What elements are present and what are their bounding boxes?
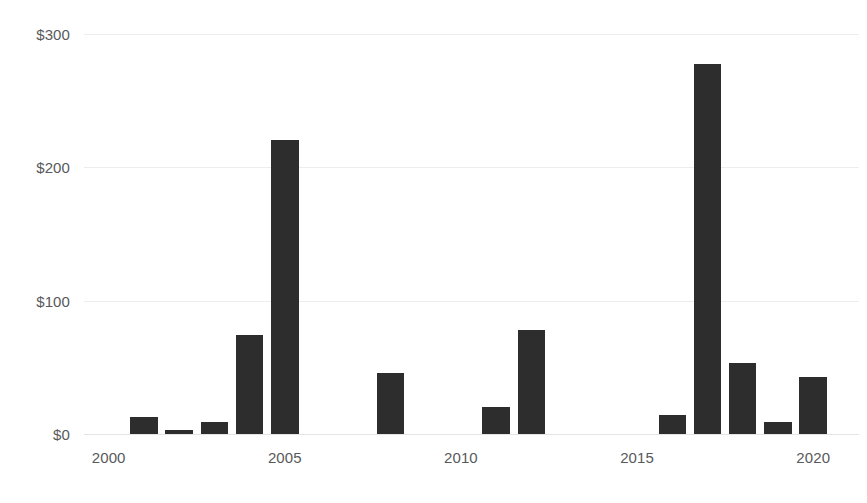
x-axis-tick-label: 2015 xyxy=(620,449,654,466)
x-axis-tick-label: 2020 xyxy=(796,449,830,466)
bar xyxy=(377,373,404,434)
y-axis-tick-label: $300 xyxy=(36,25,70,42)
bar-chart: $0$100$200$300 20002005201020152020 xyxy=(0,0,867,503)
bar xyxy=(271,140,298,434)
gridline xyxy=(84,301,859,302)
bar xyxy=(694,64,721,434)
x-axis-tick-label: 2010 xyxy=(444,449,478,466)
bar xyxy=(729,363,756,434)
bar xyxy=(236,335,263,434)
y-axis-tick-label: $0 xyxy=(53,426,70,443)
bar xyxy=(130,417,157,434)
gridline xyxy=(84,167,859,168)
bar xyxy=(482,407,509,434)
bar xyxy=(659,415,686,434)
y-axis-tick-label: $200 xyxy=(36,159,70,176)
y-axis-tick-labels: $0$100$200$300 xyxy=(0,34,70,435)
gridline xyxy=(84,34,859,35)
x-axis-tick-label: 2005 xyxy=(268,449,302,466)
bar xyxy=(764,422,791,434)
bar xyxy=(518,330,545,434)
bar xyxy=(201,422,228,434)
x-axis-tick-labels: 20002005201020152020 xyxy=(0,449,867,473)
bar xyxy=(165,430,192,434)
plot-area xyxy=(84,34,859,435)
x-axis-tick-label: 2000 xyxy=(92,449,126,466)
bar xyxy=(799,377,826,434)
x-axis-baseline xyxy=(84,434,859,435)
y-axis-tick-label: $100 xyxy=(36,292,70,309)
